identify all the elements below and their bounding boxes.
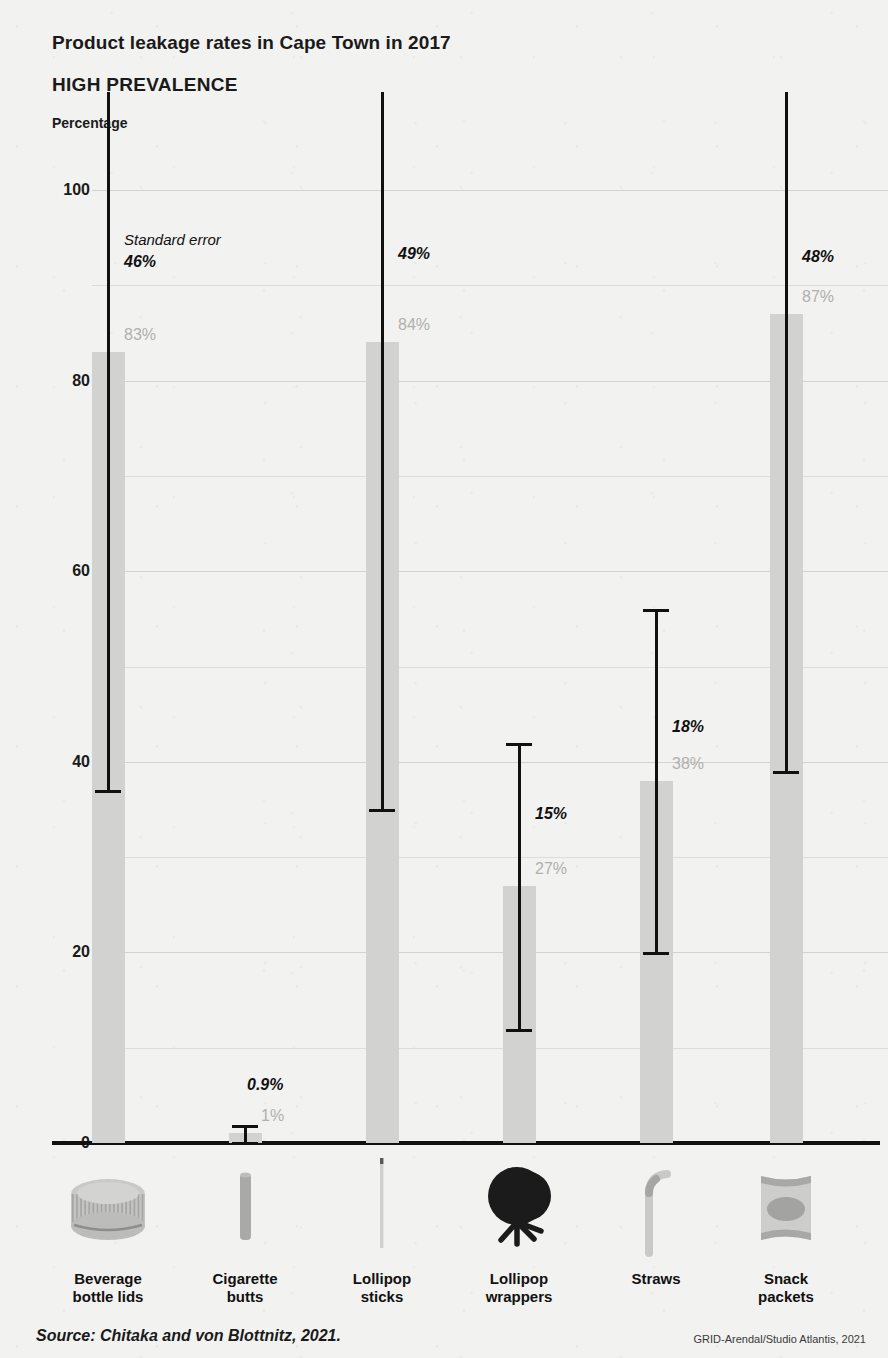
credit-note: GRID-Arendal/Studio Atlantis, 2021 xyxy=(694,1333,866,1345)
y-tick-20: 20 xyxy=(46,943,90,961)
error-bar-cap-top-3 xyxy=(506,743,532,746)
error-bar-line-5 xyxy=(785,92,788,771)
y-tick-40: 40 xyxy=(46,753,90,771)
y-axis-label: Percentage xyxy=(52,115,127,131)
y-tick-80: 80 xyxy=(46,372,90,390)
error-bar-cap-bottom-2 xyxy=(369,809,395,812)
error-bar-cap-top-1 xyxy=(232,1125,258,1128)
bottle-cap-icon xyxy=(66,1168,150,1248)
error-bar-line-3 xyxy=(518,743,521,1029)
chart-root: Product leakage rates in Cape Town in 20… xyxy=(0,0,888,1358)
y-tick-60: 60 xyxy=(46,562,90,580)
category-label-5: Snack packets xyxy=(716,1270,856,1306)
cigarette-butt-icon xyxy=(233,1168,257,1248)
error-label-5: 48% xyxy=(802,248,834,266)
value-label-0: 83% xyxy=(124,326,156,344)
error-label-2: 49% xyxy=(398,245,430,263)
error-bar-cap-bottom-5 xyxy=(773,771,799,774)
category-label-4: Straws xyxy=(586,1270,726,1288)
category-label-1: Cigarette butts xyxy=(175,1270,315,1306)
error-label-1: 0.9% xyxy=(247,1076,283,1094)
gridline-90 xyxy=(92,285,888,286)
value-label-3: 27% xyxy=(535,860,567,878)
category-label-0: Beverage bottle lids xyxy=(38,1270,178,1306)
error-bar-line-2 xyxy=(381,92,384,809)
x-axis-baseline xyxy=(52,1141,880,1145)
error-bar-cap-top-4 xyxy=(643,609,669,612)
lollipop-wrapper-icon xyxy=(482,1160,556,1254)
category-label-2: Lollipop sticks xyxy=(312,1270,452,1306)
value-label-2: 84% xyxy=(398,316,430,334)
straw-icon xyxy=(633,1168,679,1264)
value-label-1: 1% xyxy=(261,1107,284,1125)
source-note: Source: Chitaka and von Blottnitz, 2021. xyxy=(36,1327,341,1345)
error-label-4: 18% xyxy=(672,718,704,736)
value-label-4: 38% xyxy=(672,755,704,773)
error-label-0: 46% xyxy=(124,253,156,271)
error-bar-cap-bottom-3 xyxy=(506,1029,532,1032)
lollipop-stick-icon xyxy=(376,1158,388,1252)
y-tick-100: 100 xyxy=(46,181,90,199)
page-title: Product leakage rates in Cape Town in 20… xyxy=(52,32,451,54)
error-bar-cap-bottom-1 xyxy=(232,1142,258,1145)
category-label-3: Lollipop wrappers xyxy=(449,1270,589,1306)
error-bar-cap-bottom-0 xyxy=(95,790,121,793)
error-label-3: 15% xyxy=(535,805,567,823)
gridline-100 xyxy=(92,190,888,191)
error-bar-line-0 xyxy=(107,92,110,790)
snack-packet-icon xyxy=(753,1168,819,1252)
error-bar-cap-bottom-4 xyxy=(643,952,669,955)
value-label-5: 87% xyxy=(802,288,834,306)
standard-error-note: Standard error xyxy=(124,231,221,250)
chart-subtitle: HIGH PREVALENCE xyxy=(52,74,238,96)
error-bar-line-4 xyxy=(655,609,658,952)
